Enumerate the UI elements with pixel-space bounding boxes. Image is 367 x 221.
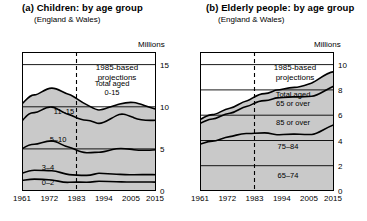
page-title-b: (b) Elderly people: by age group xyxy=(206,2,354,13)
projection-note-b: 1985-based projections xyxy=(274,63,316,83)
band-label-85-or-over: 85 or over xyxy=(276,119,310,128)
band-label-65-74: 65–74 xyxy=(278,172,299,181)
band-label-0-2: 0–2 xyxy=(42,179,55,188)
ytick-b-10: 10 xyxy=(338,60,347,69)
ytick-a-10: 10 xyxy=(160,102,169,111)
ytick-b-4: 4 xyxy=(338,136,342,145)
band-label-total-65-over: Total aged 65 or over xyxy=(276,91,311,108)
xtick-a-1961: 1961 xyxy=(13,194,31,203)
xtick-a-1972: 1972 xyxy=(40,194,58,203)
ytick-a-15: 15 xyxy=(160,60,169,69)
xtick-b-1972: 1972 xyxy=(218,194,236,203)
ytick-b-6: 6 xyxy=(338,111,342,120)
ytick-a-5: 5 xyxy=(160,144,164,153)
band-label-3-4: 3–4 xyxy=(42,164,55,173)
band-label-75-84: 75–84 xyxy=(278,143,299,152)
xtick-b-1983: 1983 xyxy=(246,194,264,203)
band-label-11-15: 11–15 xyxy=(54,108,74,117)
xtick-a-1983: 1983 xyxy=(68,194,86,203)
subtitle-a: (England & Wales) xyxy=(34,15,100,24)
chart-panel-elderly: (b) Elderly people: by age group (Englan… xyxy=(184,0,367,221)
xtick-a-2005: 2005 xyxy=(122,194,140,203)
xtick-a-2015: 2015 xyxy=(146,194,164,203)
units-label-a: Millions xyxy=(138,40,165,49)
band-label-5-10: 5–10 xyxy=(50,136,67,145)
band-label-total-0-15: Total aged 0-15 xyxy=(95,80,130,97)
subtitle-b: (England & Wales) xyxy=(218,15,284,24)
xtick-a-1994: 1994 xyxy=(95,194,113,203)
plot-area-a: 1985-based projections Total aged 0-15 1… xyxy=(22,52,156,191)
xtick-b-2015: 2015 xyxy=(324,194,342,203)
figure-root: (a) Children: by age group (England & Wa… xyxy=(0,0,367,221)
xtick-b-1961: 1961 xyxy=(191,194,209,203)
ytick-b-8: 8 xyxy=(338,85,342,94)
chart-panel-children: (a) Children: by age group (England & Wa… xyxy=(0,0,183,221)
xtick-b-2005: 2005 xyxy=(300,194,318,203)
units-label-b: Millions xyxy=(314,40,341,49)
plot-area-b: 1985-based projections Total aged 65 or … xyxy=(200,52,334,191)
page-title-a: (a) Children: by age group xyxy=(22,2,143,13)
xtick-b-1994: 1994 xyxy=(273,194,291,203)
ytick-b-2: 2 xyxy=(338,161,342,170)
